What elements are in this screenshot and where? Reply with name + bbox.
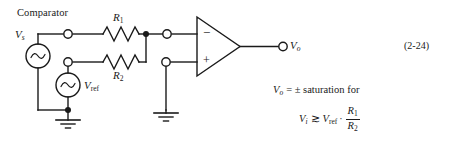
opamp-inverting-sign: − [203,26,210,39]
label-r2-sub: 2 [120,74,124,83]
label-vref: Vref [84,80,99,92]
label-vo-sub: o [297,44,301,53]
formula-ratio-fraction: R1R2 [346,105,360,132]
formula-line-1: Vo= ± saturation for [273,84,359,97]
label-r2: R2 [113,70,123,82]
label-vs-base: V [15,28,22,40]
label-vref-base: V [84,79,91,91]
formula-r2-sub: 2 [354,124,358,133]
terminal-circle-vs-out [64,30,72,38]
formula-line-1-rest: = ± saturation for [283,84,359,95]
circuit-schematic [0,0,453,141]
resistor-r1 [103,27,139,41]
ac-source-icon-vref-sine [61,83,75,88]
label-vs-sub: s [22,33,25,42]
comparator-circuit-figure: Comparator Vs Vref R1 R2 Vo − + (2-24) V… [0,0,453,141]
formula-multiply-dot: · [337,113,344,124]
label-r1-sub: 1 [120,16,124,25]
formula-ratio-denominator: R2 [346,120,360,133]
formula-line-2: Vi≳Vref·R1R2 [299,106,361,133]
terminal-circle-vref-out [64,58,72,66]
formula-r1-sub: 1 [354,109,358,118]
resistor-r2 [103,55,139,69]
terminal-circle-noninverting-input [162,58,170,66]
figure-title: Comparator [17,8,68,19]
label-vo-base: V [290,39,297,51]
label-r1: R1 [113,12,123,24]
equation-number: (2-24) [404,41,429,51]
opamp-noninverting-sign: + [203,54,210,66]
terminal-circle-inverting-input [163,30,171,38]
formula-ratio-numerator: R1 [346,105,360,118]
ac-source-icon-vs-sine [31,54,45,59]
terminal-circle-output [279,42,287,50]
label-vo: Vo [290,40,300,52]
junction-dot-summing-node [143,31,149,37]
formula-relation: ≳ [308,113,323,124]
label-vref-sub: ref [91,84,99,93]
label-vs: Vs [15,29,25,41]
junction-dot-ground-node [65,107,71,113]
label-r1-base: R [113,11,120,23]
label-r2-base: R [113,69,120,81]
